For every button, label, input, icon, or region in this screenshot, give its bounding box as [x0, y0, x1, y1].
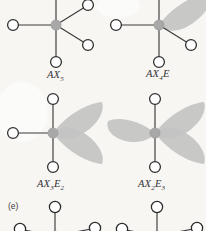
- diagram-label-ax2e3: AX2E3: [137, 178, 166, 192]
- vsepr-figure: AX5 AX4E: [0, 0, 206, 231]
- bond-equatorial-left: [126, 230, 157, 231]
- lone-pair-lobe: [53, 127, 103, 164]
- ligand-atom: [51, 57, 62, 68]
- ligand-atom: [151, 201, 162, 212]
- ligand-atom: [150, 162, 161, 173]
- diagram-label-ax5: AX5: [46, 69, 64, 83]
- diagram-label-ax3e2: AX3E2: [36, 178, 65, 192]
- ligand-atom: [191, 222, 202, 231]
- lone-pair-lobe: [159, 0, 206, 31]
- ligand-atom: [49, 201, 60, 212]
- figure-page: AX5 AX4E: [0, 0, 206, 231]
- next-row-partial-right: [116, 201, 202, 231]
- ligand-atom: [116, 223, 127, 231]
- bond-equatorial-right: [55, 229, 91, 231]
- central-atom: [150, 128, 160, 138]
- ligand-atom: [89, 222, 100, 231]
- diagram-label-ax4e: AX4E: [145, 68, 170, 82]
- diagram-ax2e3: AX2E3: [107, 94, 204, 192]
- bond-equatorial-right: [157, 229, 193, 231]
- ligand-atom: [14, 223, 25, 231]
- scan-artifact: [96, 0, 140, 18]
- next-row-partial-left: [14, 201, 100, 231]
- central-atom: [51, 20, 61, 30]
- ligand-atom: [48, 162, 59, 173]
- bond-equatorial-left: [24, 230, 55, 231]
- ligand-atom: [8, 20, 19, 31]
- ligand-atom: [48, 94, 59, 105]
- ligand-atom: [8, 128, 19, 139]
- ligand-atom: [111, 20, 122, 31]
- ligand-atom: [150, 94, 161, 105]
- lone-pair-lobe: [107, 119, 155, 142]
- central-atom: [48, 128, 58, 138]
- panel-label-e: (e): [8, 201, 19, 211]
- ligand-atom: [186, 40, 197, 51]
- ligand-atom: [154, 57, 165, 68]
- central-atom: [154, 20, 164, 30]
- lone-pair-lobe: [155, 127, 205, 164]
- ligand-atom: [83, 40, 94, 51]
- diagram-ax5: AX5: [8, 0, 94, 83]
- ligand-atom: [83, 0, 94, 10]
